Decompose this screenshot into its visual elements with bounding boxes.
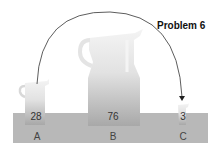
jug-b-value: 76 — [104, 111, 122, 122]
problem-title: Problem 6 — [157, 20, 205, 31]
jug-b-label: B — [106, 131, 120, 142]
jug-c-value: 3 — [176, 111, 190, 122]
jug-c-label: C — [176, 131, 190, 142]
arrowhead-icon — [179, 96, 185, 101]
jug-a-value: 28 — [27, 111, 45, 122]
diagram: Problem 6 28 76 3 A B C — [0, 0, 223, 153]
jug-a-label: A — [30, 131, 44, 142]
